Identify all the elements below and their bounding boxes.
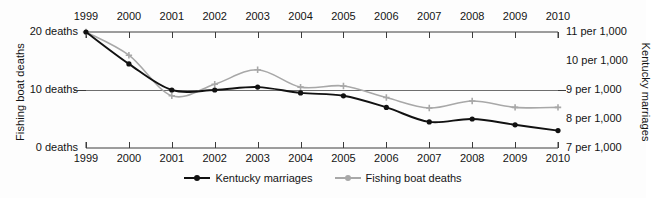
data-point-2003 [255, 85, 260, 90]
data-point-2009 [512, 104, 518, 110]
data-point-2007 [427, 119, 432, 124]
data-point-2001 [169, 87, 174, 92]
data-point-2004 [297, 84, 303, 90]
data-point-2010 [555, 128, 560, 133]
data-point-2008 [470, 116, 475, 121]
data-point-2005 [340, 83, 346, 89]
data-point-2005 [341, 93, 346, 98]
legend-swatch-icon [184, 173, 210, 183]
legend-label: Kentucky marriages [215, 172, 312, 184]
data-point-2009 [512, 122, 517, 127]
data-point-2004 [298, 90, 303, 95]
data-point-2003 [254, 67, 260, 73]
data-point-2006 [383, 94, 389, 100]
axis-spine-top [86, 32, 558, 38]
chart-legend: Kentucky marriagesFishing boat deaths [0, 172, 646, 184]
data-point-2002 [212, 81, 218, 87]
data-point-2007 [426, 105, 432, 111]
legend-item-fishing-boat-deaths[interactable]: Fishing boat deaths [335, 172, 462, 184]
data-point-2002 [212, 87, 217, 92]
series-lines [83, 29, 561, 133]
legend-swatch-icon [335, 173, 361, 183]
series-kentucky-marriages [83, 29, 560, 133]
data-point-2010 [555, 104, 561, 110]
data-point-2006 [384, 105, 389, 110]
data-point-1999 [83, 29, 88, 34]
data-point-2001 [169, 93, 175, 99]
data-point-2008 [469, 98, 475, 104]
data-point-2000 [126, 61, 131, 66]
axis-spine-bottom [86, 142, 558, 148]
legend-label: Fishing boat deaths [366, 172, 462, 184]
series-fishing-boat-deaths [83, 29, 561, 111]
series-path [86, 32, 558, 131]
series-path [86, 32, 558, 108]
legend-item-kentucky-marriages[interactable]: Kentucky marriages [184, 172, 312, 184]
